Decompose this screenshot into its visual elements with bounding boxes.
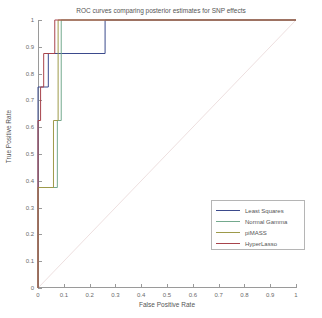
- y-tick-label: 0: [31, 285, 34, 292]
- y-tick-label: 0.1: [26, 258, 34, 265]
- x-tick-label: 0.2: [85, 292, 93, 299]
- legend-item[interactable]: Least Squares: [216, 205, 300, 216]
- y-tick-label: 0.2: [26, 231, 34, 238]
- y-tick-label: 0.8: [26, 70, 34, 77]
- y-tick-label: 0.4: [26, 177, 34, 184]
- chart-legend: Least SquaresNormal GammapiMASSHyperLass…: [211, 200, 305, 250]
- x-tick-label: 0.5: [163, 292, 171, 299]
- y-tick-label: 0.7: [26, 97, 34, 104]
- legend-color-swatch: [216, 221, 240, 222]
- x-tick-label: 0.8: [240, 292, 248, 299]
- legend-label: Normal Gamma: [245, 218, 287, 226]
- x-tick-label: 0.6: [189, 292, 197, 299]
- legend-color-swatch: [216, 232, 240, 233]
- legend-color-swatch: [216, 243, 240, 244]
- x-tick-label: 1: [294, 292, 297, 299]
- y-tick-label: 0.9: [26, 43, 34, 50]
- y-tick-label: 0.5: [26, 151, 34, 158]
- y-tick-label: 1: [31, 17, 34, 24]
- x-tick: [296, 284, 297, 288]
- x-axis-label: False Positive Rate: [38, 300, 296, 309]
- roc-chart-figure: ROC curves comparing posterior estimates…: [0, 0, 322, 318]
- legend-color-swatch: [216, 210, 240, 211]
- y-axis-label: True Positive Rate: [4, 77, 13, 197]
- x-tick-label: 0.1: [60, 292, 68, 299]
- y-tick-label: 0.6: [26, 124, 34, 131]
- x-tick-label: 0.4: [137, 292, 145, 299]
- legend-item[interactable]: piMASS: [216, 227, 300, 238]
- x-tick-label: 0.7: [214, 292, 222, 299]
- x-tick-label: 0: [36, 292, 39, 299]
- y-tick-label: 0.3: [26, 204, 34, 211]
- chart-title: ROC curves comparing posterior estimates…: [0, 6, 322, 15]
- legend-label: HyperLasso: [245, 240, 277, 248]
- x-tick-label: 0.9: [266, 292, 274, 299]
- legend-label: Least Squares: [245, 207, 284, 215]
- x-tick-label: 0.3: [111, 292, 119, 299]
- y-tick: [38, 288, 42, 289]
- legend-label: piMASS: [245, 229, 267, 237]
- legend-item[interactable]: Normal Gamma: [216, 216, 300, 227]
- legend-item[interactable]: HyperLasso: [216, 238, 300, 249]
